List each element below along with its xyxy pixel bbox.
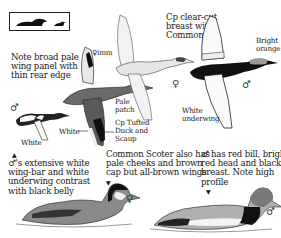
- white-underwing-label: White underwing: [182, 107, 219, 123]
- bright-orange-label: Bright orange: [256, 37, 280, 53]
- female-symbol: ♀: [172, 79, 179, 89]
- male-red-bill-note: ♂ has red bill, bright red head and blac…: [201, 150, 281, 187]
- swimming-duck-silhouettes-icon: [10, 13, 71, 32]
- common-scoter-note: Common Scoter also has pale cheeks and b…: [106, 150, 210, 178]
- field-guide-plate: Note broad pale wing panel with thin rea…: [0, 0, 281, 238]
- male-swimming-duck-icon: [148, 183, 278, 238]
- male-symbol-swimming: ♂: [266, 207, 275, 217]
- leader-lines: [76, 127, 136, 137]
- female-swimming-duck-icon: [12, 180, 142, 230]
- female-symbol-swimming: ♀: [126, 194, 133, 204]
- white-label-left: White: [21, 139, 41, 147]
- pale-patch-label: Pale patch: [115, 98, 134, 114]
- silhouette-box: [9, 12, 70, 31]
- male-symbol-flying: ♂: [242, 80, 251, 90]
